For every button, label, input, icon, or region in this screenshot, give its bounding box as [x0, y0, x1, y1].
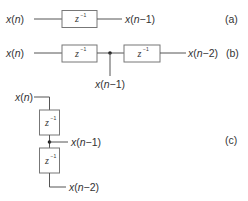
panel-a-output-label: x(n−1): [124, 13, 155, 25]
panel-c-output-label: x(n−2): [68, 181, 99, 193]
delay-block: [62, 11, 97, 28]
panel-a-tag: (a): [225, 13, 238, 25]
delay-diagram: x(n) z −1 x(n−1) (a) x(n) z −1 x(n−1) z …: [0, 0, 248, 201]
delay-symbol-base: z: [44, 155, 49, 166]
panel-c-delay-box-2: z −1: [40, 148, 60, 173]
panel-a: x(n) z −1 x(n−1) (a): [5, 11, 238, 28]
delay-symbol-exponent: −1: [81, 46, 87, 52]
panel-a-input-label: x(n): [5, 13, 24, 25]
panel-c-output-wire: [50, 173, 67, 187]
panel-b-tap-label: x(n−1): [94, 78, 125, 90]
delay-symbol-base: z: [137, 48, 142, 59]
delay-symbol-exponent: −1: [81, 12, 87, 18]
delay-symbol-exponent: −1: [51, 115, 57, 121]
panel-a-delay-box: z −1: [62, 11, 97, 28]
delay-symbol-exponent: −1: [143, 46, 149, 52]
panel-b-output-label: x(n−2): [187, 47, 218, 59]
panel-c: x(n) z −1 x(n−1) z −1 x(n−2) (c): [14, 91, 237, 193]
delay-block: [40, 148, 60, 173]
panel-b: x(n) z −1 x(n−1) z −1 x(n−2) (b): [5, 45, 239, 90]
panel-c-input-label: x(n): [14, 91, 33, 103]
panel-c-tag: (c): [225, 134, 237, 146]
panel-b-input-label: x(n): [5, 47, 24, 59]
delay-symbol-base: z: [74, 13, 79, 24]
delay-block: [40, 110, 60, 135]
delay-symbol-base: z: [44, 117, 49, 128]
panel-c-delay-box-1: z −1: [40, 110, 60, 135]
panel-c-tap-label: x(n−1): [70, 136, 101, 148]
delay-symbol-exponent: −1: [51, 153, 57, 159]
delay-block: [124, 45, 160, 62]
delay-block: [62, 45, 97, 62]
panel-b-delay-box-2: z −1: [124, 45, 160, 62]
panel-c-input-wire: [34, 97, 50, 110]
delay-symbol-base: z: [74, 48, 79, 59]
panel-b-delay-box-1: z −1: [62, 45, 97, 62]
panel-b-tag: (b): [226, 47, 239, 59]
